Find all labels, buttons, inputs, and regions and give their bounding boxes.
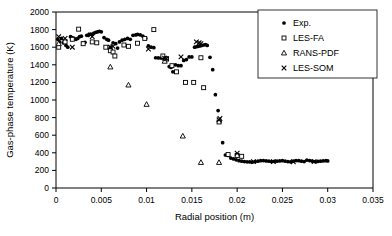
data-point-x-cross (70, 45, 75, 50)
data-point-open-square (184, 80, 188, 84)
y-tick-label: 1000 (30, 95, 49, 105)
x-tick-label: 0.01 (138, 195, 155, 205)
data-point-open-square (240, 154, 244, 158)
data-point-x-cross (179, 55, 184, 60)
data-point-filled-circle (185, 58, 189, 62)
y-tick-label: 2000 (30, 7, 49, 17)
data-point-filled-circle (116, 46, 120, 50)
data-point-filled-circle (326, 159, 330, 163)
data-point-open-square (81, 42, 85, 46)
data-point-filled-circle (80, 34, 84, 38)
data-point-filled-circle (208, 55, 212, 59)
y-tick-label: 400 (35, 148, 49, 158)
data-point-filled-circle (128, 37, 132, 41)
x-tick-label: 0.03 (319, 195, 336, 205)
data-point-filled-circle (152, 46, 156, 50)
data-point-open-square (170, 64, 174, 68)
x-tick-label: 0.005 (91, 195, 113, 205)
data-point-open-triangle (108, 64, 113, 69)
data-point-filled-circle (216, 109, 220, 113)
data-point-open-square (226, 153, 230, 157)
series-rans-pdf (56, 41, 221, 164)
y-tick-label: 1200 (30, 77, 49, 87)
data-point-open-square (111, 50, 115, 54)
data-point-open-square (90, 40, 94, 44)
x-tick-label: 0.035 (362, 195, 384, 205)
data-point-open-triangle (126, 82, 131, 87)
legend-label-les-fa: LES-FA (293, 33, 324, 43)
data-point-open-square (122, 43, 126, 47)
y-tick-label: 200 (35, 165, 49, 175)
data-point-open-square (199, 56, 203, 60)
data-point-open-square (192, 80, 196, 84)
x-tick-label: 0.02 (229, 195, 246, 205)
data-point-filled-circle (190, 55, 194, 59)
data-point-open-square (136, 41, 140, 45)
data-point-open-square (95, 41, 99, 45)
legend-marker-open-square (282, 36, 286, 40)
y-tick-label: 600 (35, 130, 49, 140)
legend-marker-filled-circle (282, 21, 286, 25)
x-tick-label: 0.015 (181, 195, 203, 205)
data-point-open-square (126, 44, 130, 48)
y-tick-label: 1400 (30, 60, 49, 70)
data-point-open-square (113, 54, 117, 58)
data-point-filled-circle (66, 45, 70, 49)
y-tick-label: 0 (44, 183, 49, 193)
y-axis-title: Gas-phase temperature (K) (4, 42, 15, 158)
data-point-open-square (143, 36, 147, 40)
data-point-filled-circle (107, 38, 111, 42)
data-point-filled-circle (214, 93, 218, 97)
chart-legend: Exp.LES-FARANS-PDFLES-SOM (258, 10, 377, 78)
data-point-open-square (174, 70, 178, 74)
data-point-open-triangle (144, 102, 149, 107)
data-point-filled-circle (205, 44, 209, 48)
data-point-open-triangle (198, 160, 203, 165)
y-tick-label: 1600 (30, 42, 49, 52)
x-axis-title: Radial position (m) (175, 211, 254, 222)
x-tick-label: 0 (54, 195, 59, 205)
x-tick-label: 0.025 (272, 195, 294, 205)
data-point-open-square (202, 86, 206, 90)
data-point-open-square (104, 45, 108, 49)
legend-label-les-som: LES-SOM (293, 63, 334, 73)
data-point-open-square (70, 37, 74, 41)
data-point-filled-circle (99, 30, 103, 34)
legend-label-rans-pdf: RANS-PDF (293, 48, 340, 58)
y-tick-label: 800 (35, 113, 49, 123)
scatter-plot: 020040060080010001200140016001800200000.… (0, 0, 392, 236)
chart-figure: 020040060080010001200140016001800200000.… (0, 0, 392, 236)
data-point-filled-circle (179, 64, 183, 68)
data-point-filled-circle (221, 141, 225, 145)
data-point-open-square (77, 27, 81, 31)
data-point-open-triangle (180, 133, 185, 138)
y-tick-label: 1800 (30, 25, 49, 35)
data-point-open-triangle (216, 160, 221, 165)
data-point-filled-circle (211, 68, 215, 72)
data-point-open-square (152, 28, 156, 32)
legend-label-exp: Exp. (293, 18, 311, 28)
